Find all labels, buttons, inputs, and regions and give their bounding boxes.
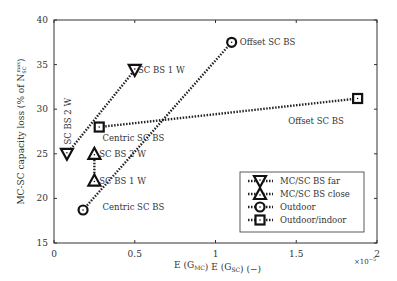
y-tick-label: 25 [37, 149, 49, 159]
circle-marker-icon-dot [231, 42, 233, 44]
square-legend-icon-dot [259, 219, 261, 221]
annotation-label: SC BS 2 W [63, 98, 73, 145]
x-tick-label: 0 [51, 249, 57, 259]
legend-label: Outdoor/indoor [280, 215, 347, 225]
x-tick-label: 0.5 [128, 249, 143, 259]
triangle-up-marker-icon-dot [94, 181, 96, 183]
legend-item: Outdoor/indoor [248, 215, 347, 225]
series-outdoor-indoor [95, 94, 362, 132]
y-tick-label: 40 [37, 15, 49, 25]
annotation-label: SC BS 2 W [99, 149, 146, 159]
legend-item: Outdoor [248, 202, 317, 212]
x-tick-label: 1 [213, 249, 219, 259]
circle-legend-icon-dot [259, 206, 261, 208]
x-tick-label: 1.5 [289, 249, 304, 259]
legend-label: Outdoor [280, 202, 317, 212]
annotation-label: Offset SC BS [288, 116, 344, 126]
triangle-down-marker-icon [61, 149, 73, 160]
triangle-up-marker-icon-dot [94, 154, 96, 156]
x-multiplier: ×10−5 [354, 256, 376, 266]
legend-label: MC/SC BS far [280, 176, 341, 186]
legend-label: MC/SC BS close [280, 189, 350, 199]
triangle-down-legend-icon-dot [259, 179, 261, 181]
chart: 00.511.52152025303540E (GMC) E (GSC) (−)… [0, 0, 397, 281]
triangle-down-marker-icon-dot [66, 152, 68, 154]
annotation-label: SC BS 1 W [138, 65, 185, 75]
series-mc-sc-bs-far [61, 65, 141, 160]
triangle-down-marker-icon-dot [134, 68, 136, 70]
y-axis-label: MC-SC capacity loss (% of NSCmax) [15, 58, 27, 204]
circle-marker-icon-dot [82, 209, 84, 211]
y-tick-label: 15 [37, 238, 49, 248]
triangle-up-legend-icon-dot [259, 194, 261, 196]
y-tick-label: 20 [37, 193, 49, 203]
x-axis-label: E (GMC) E (GSC) (−) [174, 260, 261, 274]
y-tick-label: 35 [37, 60, 49, 70]
legend-item: MC/SC BS far [248, 176, 341, 187]
annotation-label: Centric SC BS [102, 202, 164, 212]
annotation-label: SC BS 1 W [99, 176, 146, 186]
annotation-label: Centric SC BS [102, 133, 164, 143]
legend: MC/SC BS farMC/SC BS closeOutdoorOutdoor… [240, 172, 364, 232]
square-marker-icon-dot [98, 126, 100, 128]
annotation-label: Offset SC BS [240, 37, 296, 47]
square-marker-icon-dot [357, 98, 359, 100]
y-tick-label: 30 [37, 104, 49, 114]
